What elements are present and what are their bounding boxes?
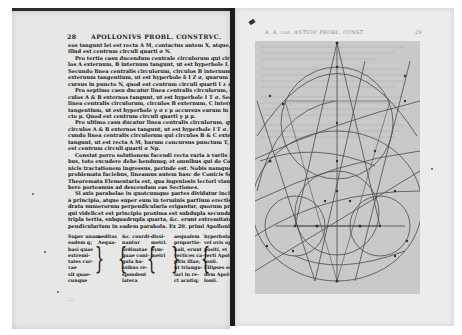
table-cell: metri	[151, 253, 167, 259]
text-line: cundo linea centralis circulorum qui cir…	[68, 132, 230, 138]
right-page: A. A. con. ANTIOP. PROBL. CONST. 29	[235, 8, 454, 326]
body-text: eos tangunt lei est recta A M, contactus…	[68, 42, 230, 229]
table-column: hyperbolae vel ovis op- positi, et verti…	[204, 234, 233, 284]
text-line: los A externum, B internum tangunt, ut e…	[68, 61, 230, 67]
running-head-title-right: A. A. con. ANTIOP. PROBL. CONST.	[265, 29, 365, 35]
table-cell: proportio-	[174, 240, 204, 246]
text-line: bus, toto excudere debe bendumq; et omni…	[68, 158, 230, 164]
text-line: Pro ultimo casu ducatur linea centralis …	[68, 119, 230, 125]
paragraph: Pro tertio casu ducendum centrale circul…	[68, 55, 230, 87]
running-head-left: 28 APOLLONIVS PROBL. CONSTRVC.	[67, 33, 229, 40]
table-cell: ut triangu-	[174, 265, 204, 271]
text-line: drata numerorum perpendicularia erigantu…	[68, 203, 230, 209]
text-line: pendicularium in eadem parabola. Ex 20. …	[68, 223, 230, 229]
table-cell: ct acutiq;	[174, 278, 204, 284]
running-head-right: A. A. con. ANTIOP. PROBL. CONST. 29	[265, 29, 435, 35]
paragraph: eos tangunt lei est recta A M, contactus…	[68, 42, 230, 55]
text-line: Si axis parabolae in quotcumque partes d…	[68, 190, 230, 196]
footer-mark: ∴∴	[68, 297, 74, 302]
page-number-right: 29	[415, 29, 422, 35]
running-head-title: APOLLONIVS PROBL. CONSTRVC.	[91, 33, 222, 40]
table-cell: lonii.	[204, 278, 233, 284]
page-number-left: 28	[67, 33, 76, 40]
table-column: aequalem proportio- nali, erunt vertices…	[174, 234, 204, 284]
table-column: aeditas Aequa-	[98, 234, 117, 247]
brace-table: Super unam eadem q; basi quae extremi- t…	[68, 234, 230, 294]
paper-speck	[431, 168, 433, 170]
paragraph: Pro septimo casu ducatur linea centralis…	[68, 87, 230, 119]
left-page: 28 APOLLONIVS PROBL. CONSTRVC. eos tangu…	[12, 8, 230, 329]
paper-speck	[32, 193, 34, 195]
text-line: externum tangentium, ut est hyperbole δ …	[68, 74, 230, 80]
paragraph: Pro ultimo casu ducatur linea centralis …	[68, 119, 230, 151]
paragraph: Constat porro solutionem facendi recta v…	[68, 152, 230, 191]
book-spread: 28 APOLLONIVS PROBL. CONSTRVC. eos tangu…	[12, 8, 454, 328]
table-cell: Ellipses ea	[204, 265, 233, 271]
table-column: dissi- metri. Sym- metri	[151, 234, 167, 259]
text-line: linea centralis circulorum, circulos B e…	[68, 100, 230, 106]
text-line: tripla tertia, subquadrupla quarta, &c. …	[68, 216, 230, 222]
text-line: Pro septimo casu ducatur linea centralis…	[68, 87, 230, 93]
table-cell: nali, erunt	[174, 247, 204, 253]
table-cell: Aequa-	[98, 240, 117, 246]
geometric-diagram	[255, 41, 420, 294]
paper-speck	[57, 291, 59, 293]
paragraph: Si axis parabolae in quotcumque partes d…	[68, 190, 230, 229]
table-cell: metri.	[151, 240, 167, 246]
ink-mark	[248, 19, 255, 26]
text-line: problemata faciebus, lineamus autem hasc…	[68, 171, 230, 177]
table-cell: vel ovis op-	[204, 240, 233, 246]
diagram-svg	[255, 41, 420, 294]
paper-speck	[44, 251, 46, 253]
